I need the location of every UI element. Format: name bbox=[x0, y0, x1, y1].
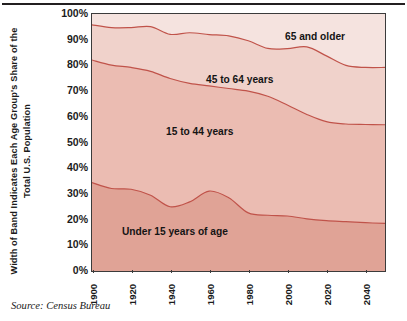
band-label-15-to-44: 15 to 44 years bbox=[166, 126, 233, 137]
x-tick-label: 1920 bbox=[127, 278, 138, 312]
header-rule bbox=[2, 3, 405, 5]
y-tick-label: 40% bbox=[52, 161, 88, 173]
x-tick-label: 2040 bbox=[361, 278, 372, 312]
x-tick-label: 2000 bbox=[283, 278, 294, 312]
x-tick-mark bbox=[249, 270, 250, 273]
x-tick-mark bbox=[288, 270, 289, 273]
source-note: Source: Census Bureau bbox=[11, 300, 110, 311]
band-label-under-15: Under 15 years of age bbox=[122, 226, 228, 237]
x-tick-mark bbox=[366, 270, 367, 273]
y-axis-tick-labels: 100%90%80%70%60%50%40%30%20%10%0% bbox=[52, 6, 88, 274]
y-tick-label: 10% bbox=[52, 238, 88, 250]
band-label-45-to-64: 45 to 64 years bbox=[206, 74, 273, 85]
band-label-65-and-older: 65 and older bbox=[285, 31, 345, 42]
x-tick-mark bbox=[210, 270, 211, 273]
y-tick-label: 50% bbox=[52, 136, 88, 148]
y-tick-label: 100% bbox=[52, 7, 88, 19]
y-tick-label: 70% bbox=[52, 84, 88, 96]
x-tick-label: 2020 bbox=[322, 278, 333, 312]
x-tick-label: 1960 bbox=[205, 278, 216, 312]
y-tick-label: 60% bbox=[52, 110, 88, 122]
y-tick-label: 20% bbox=[52, 213, 88, 225]
x-tick-mark bbox=[327, 270, 328, 273]
plot-area: 65 and older 45 to 64 years 15 to 44 yea… bbox=[91, 13, 386, 272]
x-tick-mark bbox=[93, 270, 94, 273]
y-tick-label: 90% bbox=[52, 33, 88, 45]
y-axis-title: Width of Band Indicates Each Age Group's… bbox=[8, 26, 40, 276]
x-tick-mark bbox=[171, 270, 172, 273]
y-tick-label: 30% bbox=[52, 187, 88, 199]
y-tick-label: 80% bbox=[52, 58, 88, 70]
x-axis-tick-labels: 19001920194019601980200020202040 bbox=[91, 272, 391, 306]
y-tick-label: 0% bbox=[52, 264, 88, 276]
census-age-share-figure: Width of Band Indicates Each Age Group's… bbox=[0, 0, 407, 321]
x-tick-label: 1980 bbox=[244, 278, 255, 312]
x-tick-label: 1940 bbox=[166, 278, 177, 312]
x-tick-mark bbox=[132, 270, 133, 273]
